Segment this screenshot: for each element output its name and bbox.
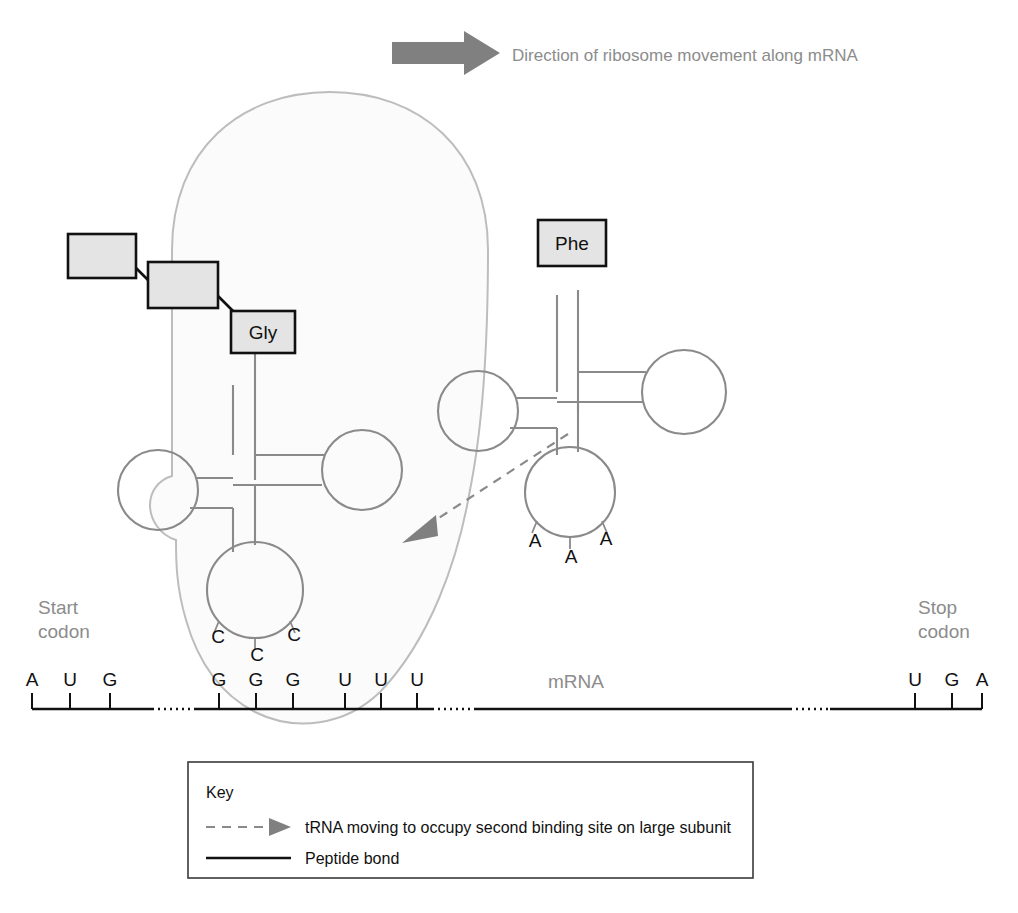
mrna-base-codon2-2: U [374, 669, 388, 690]
direction-arrow-icon [392, 31, 500, 75]
key-title: Key [206, 784, 234, 801]
key-item-peptide-bond-label: Peptide bond [305, 850, 399, 867]
mrna-base-codon2-3: U [410, 669, 424, 690]
trna-gly-anticodon-base-3: C [287, 624, 301, 645]
trna-gly-anticodon-base-1: C [211, 626, 225, 647]
key-legend: Key tRNA moving to occupy second binding… [188, 762, 753, 878]
trna-phe-anticodon-base-3: A [600, 528, 613, 549]
start-codon-label-line1: Start [38, 597, 79, 618]
start-codon-label: Start codon [38, 597, 90, 642]
amino-acid-box-phe-label: Phe [555, 233, 589, 254]
start-codon-label-line2: codon [38, 621, 90, 642]
mrna-base-codon1-1: G [212, 669, 227, 690]
stop-codon-label-line1: Stop [918, 597, 957, 618]
mrna-base-stop-3: A [976, 669, 989, 690]
mrna-base-start-1: A [26, 669, 39, 690]
amino-acid-box-gly-label: Gly [249, 322, 278, 343]
mrna-base-stop-1: U [908, 669, 922, 690]
amino-acid-box-1 [68, 234, 136, 278]
mrna-base-codon1-2: G [249, 669, 264, 690]
translation-diagram: Direction of ribosome movement along mRN… [0, 0, 1018, 913]
trna-phe-anticodon-base-1: A [529, 530, 542, 551]
direction-arrow-label: Direction of ribosome movement along mRN… [512, 46, 858, 65]
trna-gly-anticodon-base-2: C [250, 644, 264, 665]
mrna-label: mRNA [548, 671, 604, 692]
diagram-canvas: Direction of ribosome movement along mRN… [0, 0, 1018, 913]
amino-acid-box-2 [148, 262, 218, 308]
mrna-strand: A U G G G G U U U U G A mRNA [26, 669, 989, 709]
trna-phe-anticodon-loop [525, 447, 615, 537]
direction-banner: Direction of ribosome movement along mRN… [392, 31, 858, 75]
stop-codon-label: Stop codon [918, 597, 970, 642]
mrna-base-codon1-3: G [286, 669, 301, 690]
stop-codon-label-line2: codon [918, 621, 970, 642]
mrna-base-start-2: U [63, 669, 77, 690]
mrna-base-codon2-1: U [338, 669, 352, 690]
phe-amino-acid: Phe [538, 220, 606, 266]
key-item-trna-moving-label: tRNA moving to occupy second binding sit… [305, 819, 732, 836]
mrna-base-stop-2: G [945, 669, 960, 690]
mrna-base-start-3: G [103, 669, 118, 690]
trna-phe-anticodon-base-2: A [565, 546, 578, 567]
trna-phe-t-loop [642, 350, 726, 434]
